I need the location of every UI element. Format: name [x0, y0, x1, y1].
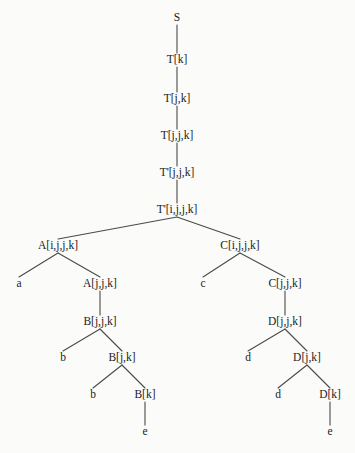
tree-edge — [58, 253, 100, 277]
tree-leaf-node: e — [327, 425, 332, 437]
tree-internal-node: B[j,k] — [108, 351, 135, 364]
tree-leaf-node: a — [16, 277, 21, 289]
tree-edge — [278, 365, 307, 388]
tree-leaf-node: e — [142, 425, 147, 437]
tree-internal-node: T[j,k] — [164, 92, 191, 105]
tree-edge — [285, 329, 307, 351]
tree-edge — [307, 365, 330, 388]
tree-internal-node: T'[i,j,j,k] — [157, 203, 198, 216]
tree-internal-node: T[j,j,k] — [161, 129, 194, 142]
tree-node-layer: ST[k]T[j,k]T[j,j,k]T'[j,j,k]T'[i,j,j,k]A… — [16, 11, 340, 437]
tree-internal-node: T'[j,j,k] — [160, 166, 195, 179]
tree-edge — [19, 253, 58, 277]
tree-internal-node: B[j,j,k] — [83, 315, 116, 328]
tree-edge — [122, 365, 145, 388]
tree-internal-node: C[i,j,j,k] — [220, 239, 259, 252]
tree-internal-node: B[k] — [134, 388, 155, 400]
tree-edge — [63, 329, 100, 351]
tree-edge-layer — [19, 25, 330, 425]
tree-edge — [248, 329, 285, 351]
tree-internal-node: D[k] — [319, 388, 341, 400]
tree-internal-node: T[k] — [167, 53, 187, 65]
tree-internal-node: D[j,k] — [293, 351, 321, 364]
derivation-tree-figure: ST[k]T[j,k]T[j,j,k]T'[j,j,k]T'[i,j,j,k]A… — [0, 0, 355, 453]
tree-edge — [93, 365, 122, 388]
tree-edge — [177, 217, 240, 239]
tree-edge — [58, 217, 177, 239]
tree-edge — [100, 329, 122, 351]
tree-internal-node: A[j,j,k] — [83, 277, 117, 290]
tree-leaf-node: d — [245, 351, 251, 363]
tree-leaf-node: b — [60, 351, 66, 363]
tree-internal-node: D[j,j,k] — [268, 315, 302, 328]
tree-edge — [203, 253, 240, 277]
tree-leaf-node: b — [90, 388, 96, 400]
tree-leaf-node: d — [275, 388, 281, 400]
tree-leaf-node: c — [200, 277, 205, 289]
tree-internal-node: A[i,j,j,k] — [38, 239, 78, 252]
tree-canvas: ST[k]T[j,k]T[j,j,k]T'[j,j,k]T'[i,j,j,k]A… — [0, 0, 355, 453]
tree-internal-node: C[j,j,k] — [268, 277, 301, 290]
tree-edge — [240, 253, 285, 277]
tree-internal-node: S — [174, 11, 180, 23]
